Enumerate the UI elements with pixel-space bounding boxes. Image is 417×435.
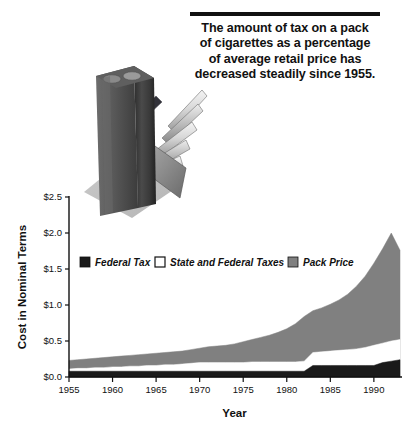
chart-axis-titles-layer: YearCost in Nominal Terms xyxy=(16,225,247,419)
y-axis-tick-label: $0.0 xyxy=(44,371,63,382)
x-axis-tick-label: 1965 xyxy=(146,384,167,395)
x-axis-tick-label: 1985 xyxy=(320,384,341,395)
x-axis-tick-label: 1980 xyxy=(276,384,297,395)
legend-item: Federal Tax xyxy=(80,257,151,268)
chart-series-layer xyxy=(69,233,400,377)
stacked-area-chart: $0.0$0.5$1.0$1.5$2.0$2.51955196019651970… xyxy=(0,0,417,435)
x-axis-tick-label: 1960 xyxy=(102,384,123,395)
y-axis-tick-label: $2.0 xyxy=(44,227,63,238)
x-axis-tick-label: 1955 xyxy=(58,384,79,395)
x-axis-title: Year xyxy=(222,407,247,419)
x-axis-tick-label: 1975 xyxy=(233,384,254,395)
x-axis-tick-label: 1990 xyxy=(363,384,384,395)
legend-swatch xyxy=(80,257,90,267)
chart-canvas: $0.0$0.5$1.0$1.5$2.0$2.51955196019651970… xyxy=(0,0,417,435)
y-axis-tick-label: $1.5 xyxy=(44,263,63,274)
legend-item: State and Federal Taxes xyxy=(155,257,285,268)
legend-label: Federal Tax xyxy=(95,257,151,268)
y-axis-tick-label: $0.5 xyxy=(44,335,63,346)
x-axis-tick-label: 1970 xyxy=(189,384,210,395)
legend-label: Pack Price xyxy=(303,257,354,268)
legend-swatch xyxy=(155,257,165,267)
y-axis-title: Cost in Nominal Terms xyxy=(16,225,28,349)
y-axis-tick-label: $1.0 xyxy=(44,299,63,310)
y-axis-tick-label: $2.5 xyxy=(44,191,63,202)
chart-legend-layer: Federal TaxState and Federal TaxesPack P… xyxy=(80,257,354,268)
legend-label: State and Federal Taxes xyxy=(170,257,285,268)
legend-item: Pack Price xyxy=(288,257,354,268)
legend-swatch xyxy=(288,257,298,267)
